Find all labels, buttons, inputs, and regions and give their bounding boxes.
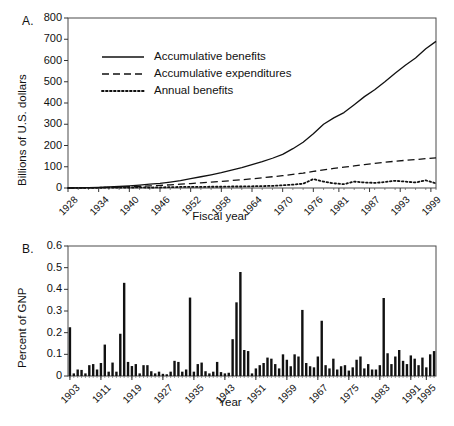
panel-a-y-tick: 0 — [20, 181, 62, 193]
panel-b-y-tick: 0.3 — [20, 304, 62, 316]
panel-b-y-tick: 0 — [20, 369, 62, 381]
legend-label: Annual benefits — [154, 84, 233, 96]
panel-a-y-tick: 800 — [20, 11, 62, 23]
panel-a-plot — [0, 0, 454, 228]
legend-swatch-solid — [100, 52, 146, 62]
legend-swatch-dashed — [100, 69, 146, 79]
panel-a-y-tick: 600 — [20, 54, 62, 66]
legend-swatch-dotted — [100, 86, 146, 96]
figure-root: A. Billions of U.S. dollars Fiscal year … — [0, 0, 454, 426]
panel-a-y-tick: 400 — [20, 96, 62, 108]
panel-b-y-tick: 0.4 — [20, 282, 62, 294]
panel-b: B. Percent of GNP Year 0.60.50.40.30.20.… — [0, 228, 454, 426]
panel-b-y-tick: 0.6 — [20, 239, 62, 251]
panel-b-y-tick: 0.2 — [20, 326, 62, 338]
panel-b-y-tick: 0.5 — [20, 261, 62, 273]
panel-a-y-tick: 500 — [20, 75, 62, 87]
legend-label: Accumulative expenditures — [154, 67, 291, 79]
panel-a-y-tick: 200 — [20, 139, 62, 151]
panel-a-y-tick: 100 — [20, 160, 62, 172]
panel-a-y-tick: 700 — [20, 32, 62, 44]
panel-b-y-tick: 0.1 — [20, 347, 62, 359]
legend-label: Accumulative benefits — [154, 50, 266, 62]
panel-a-y-tick: 300 — [20, 117, 62, 129]
panel-a: A. Billions of U.S. dollars Fiscal year … — [0, 0, 454, 228]
